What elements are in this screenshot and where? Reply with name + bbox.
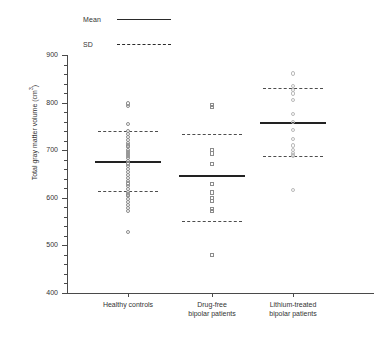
- legend-entry-sd: SD: [83, 41, 171, 48]
- data-point: [210, 209, 214, 213]
- y-tick-major-400: [62, 293, 67, 294]
- x-tick-label-line: bipolar patients: [233, 309, 353, 318]
- y-tick-major-800: [62, 103, 67, 104]
- x-tick-2: [293, 293, 294, 297]
- data-point: [291, 91, 295, 95]
- data-point: [291, 98, 295, 102]
- legend-swatch-sd-dashed-line: [117, 44, 171, 45]
- legend-entry-mean: Mean: [83, 16, 171, 23]
- mean-line-group-1: [179, 175, 245, 177]
- data-point: [210, 199, 214, 203]
- y-axis-title: Total gray matter volume (cm3): [28, 53, 37, 213]
- data-point: [210, 105, 214, 109]
- y-tick-minor-760: [64, 122, 68, 123]
- y-tick-label-700: 700: [34, 146, 58, 153]
- legend-label-mean: Mean: [83, 16, 117, 23]
- y-tick-label-800: 800: [34, 99, 58, 106]
- y-tick-minor-860: [64, 74, 68, 75]
- y-tick-minor-840: [64, 84, 68, 85]
- y-tick-major-500: [62, 245, 67, 246]
- y-tick-major-600: [62, 198, 67, 199]
- data-point: [210, 182, 214, 186]
- y-tick-major-700: [62, 150, 67, 151]
- data-point: [291, 154, 295, 158]
- y-tick-minor-480: [64, 255, 68, 256]
- data-point: [210, 190, 214, 194]
- x-tick-label-line: Lithium-treated: [233, 300, 353, 309]
- data-point: [126, 104, 130, 108]
- data-point: [291, 137, 295, 141]
- y-tick-minor-460: [64, 264, 68, 265]
- y-tick-minor-420: [64, 283, 68, 284]
- legend-label-sd: SD: [83, 41, 117, 48]
- y-tick-minor-680: [64, 160, 68, 161]
- y-tick-minor-620: [64, 188, 68, 189]
- y-tick-minor-660: [64, 169, 68, 170]
- data-point: [126, 230, 130, 234]
- data-point: [291, 120, 295, 124]
- y-tick-minor-540: [64, 226, 68, 227]
- data-point: [210, 162, 214, 166]
- y-tick-minor-580: [64, 207, 68, 208]
- data-point: [291, 112, 295, 116]
- data-point: [291, 128, 295, 132]
- y-tick-minor-560: [64, 217, 68, 218]
- y-tick-minor-820: [64, 93, 68, 94]
- data-point: [126, 122, 130, 126]
- y-tick-label-500: 500: [34, 241, 58, 248]
- sd-lower-line-group-1: [182, 221, 242, 222]
- x-tick-0: [128, 293, 129, 297]
- y-axis-line: [67, 55, 68, 294]
- y-tick-minor-440: [64, 274, 68, 275]
- x-tick-1: [212, 293, 213, 297]
- y-tick-minor-640: [64, 179, 68, 180]
- gray-matter-volume-scatter-figure: Mean SD Total gray matter volume (cm3) 9…: [0, 0, 381, 339]
- y-tick-minor-720: [64, 141, 68, 142]
- legend-swatch-mean-solid-line: [117, 19, 171, 20]
- x-tick-label-group-2: Lithium-treatedbipolar patients: [233, 300, 353, 318]
- data-point: [291, 143, 295, 147]
- y-tick-minor-880: [64, 65, 68, 66]
- data-point: [291, 188, 295, 192]
- x-axis-line: [67, 293, 374, 294]
- data-point: [210, 253, 214, 257]
- y-tick-minor-780: [64, 112, 68, 113]
- y-tick-minor-740: [64, 131, 68, 132]
- y-tick-label-600: 600: [34, 194, 58, 201]
- y-tick-minor-520: [64, 236, 68, 237]
- y-tick-label-900: 900: [34, 51, 58, 58]
- sd-upper-line-group-1: [182, 134, 242, 135]
- data-point: [210, 151, 214, 155]
- data-point: [126, 209, 130, 213]
- y-tick-label-400: 400: [34, 289, 58, 296]
- data-point: [291, 71, 295, 75]
- y-tick-major-900: [62, 55, 67, 56]
